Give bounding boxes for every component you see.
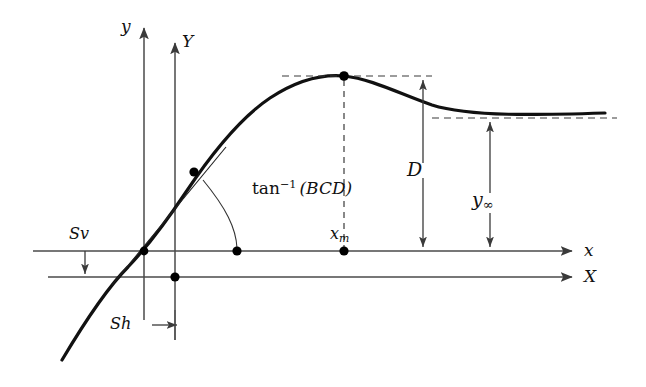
horizontal-shift-label: Sh bbox=[110, 316, 131, 332]
peak-abscissa-symbol: x bbox=[330, 224, 339, 243]
shift-origin-marker bbox=[170, 272, 179, 281]
steady-state-symbol: y bbox=[472, 188, 483, 210]
peak-abscissa-label: xm bbox=[330, 226, 349, 245]
angle-arc-endpoint-marker bbox=[232, 246, 241, 255]
peak-abscissa-subscript: m bbox=[339, 232, 349, 245]
y-axis-label: y bbox=[121, 18, 131, 35]
inflection-marker bbox=[189, 167, 198, 176]
figure-canvas: y Y x X Sv Sh tan−1(BCD) D y∞ xm bbox=[0, 0, 646, 387]
vertical-shift-label: Sv bbox=[69, 226, 89, 242]
steady-state-label: y∞ bbox=[472, 190, 494, 212]
slope-angle-exponent: −1 bbox=[280, 178, 297, 191]
tangent-line bbox=[112, 147, 226, 285]
slope-angle-arg: (BCD) bbox=[299, 178, 352, 198]
slope-angle-label: tan−1(BCD) bbox=[252, 179, 352, 197]
peak-abscissa-marker bbox=[339, 246, 348, 255]
peak-marker bbox=[339, 71, 349, 81]
slope-angle-fn: tan bbox=[252, 178, 280, 198]
construction-lines-group bbox=[282, 76, 617, 247]
markers-group bbox=[140, 71, 349, 281]
angle-arc bbox=[203, 180, 237, 248]
steady-state-subscript: ∞ bbox=[483, 197, 494, 212]
X-axis-label: X bbox=[584, 268, 596, 285]
overshoot-label: D bbox=[407, 160, 422, 179]
origin-marker bbox=[140, 247, 149, 256]
measurements-group bbox=[85, 80, 490, 340]
Y-axis-label: Y bbox=[182, 33, 193, 50]
x-axis-label: x bbox=[584, 242, 594, 259]
